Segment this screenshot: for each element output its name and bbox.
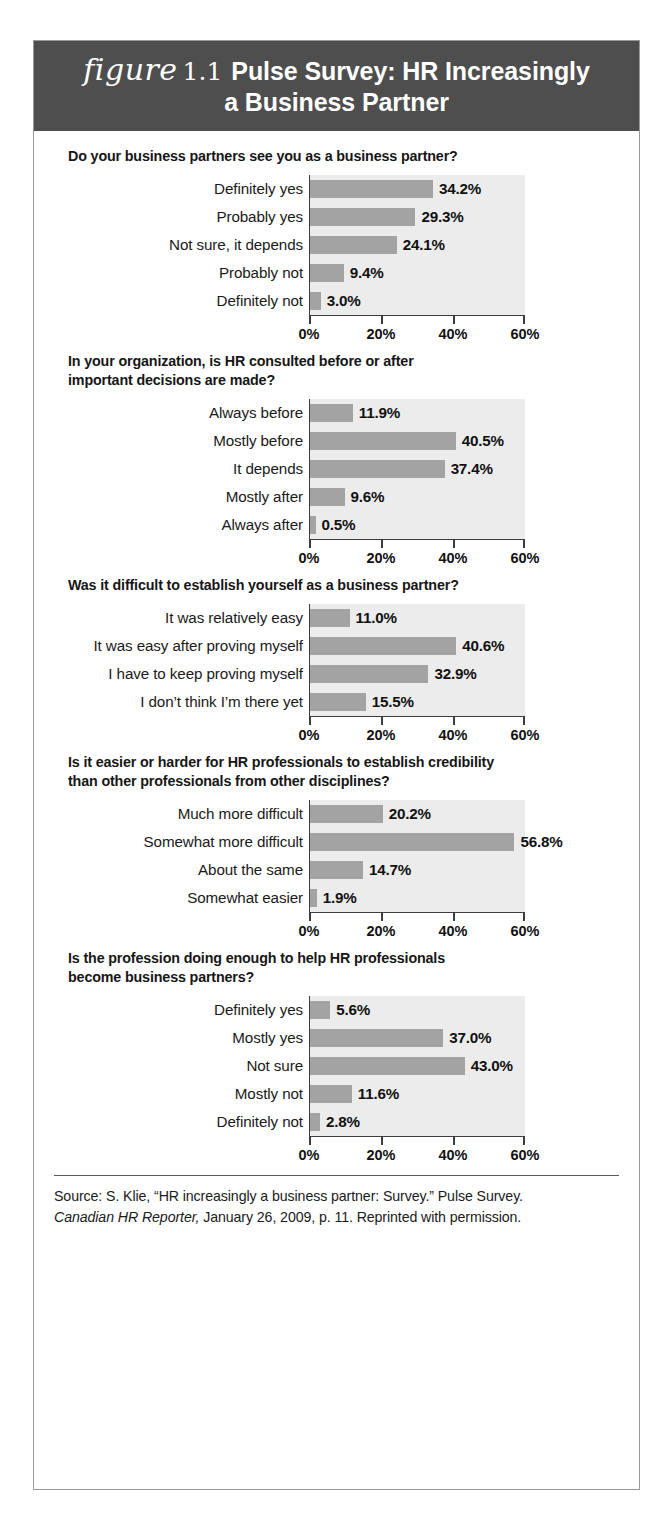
category-label: Probably not	[52, 259, 303, 287]
figure-title-line-2: a Business Partner	[224, 88, 449, 116]
x-axis-tick-label: 40%	[438, 923, 467, 939]
bar-value-label: 0.5%	[316, 511, 356, 539]
x-axis-tick-label: 0%	[299, 727, 320, 743]
source-line-1: Source: S. Klie, “HR increasingly a busi…	[54, 1186, 619, 1207]
bar-row: 56.8%	[310, 828, 525, 856]
x-axis-tick-label: 40%	[438, 326, 467, 342]
x-axis-tick-label: 40%	[438, 727, 467, 743]
bar-row: 37.0%	[310, 1024, 525, 1052]
category-label: It was easy after proving myself	[52, 632, 303, 660]
bar-row: 14.7%	[310, 856, 525, 884]
figure-header-line-1: figure1.1Pulse Survey: HR Increasingly	[64, 53, 609, 88]
bar	[310, 180, 433, 198]
x-axis-tick	[453, 540, 455, 548]
category-label: Somewhat more difficult	[52, 828, 303, 856]
x-axis-tick	[309, 316, 311, 324]
x-axis-tick-label: 40%	[438, 550, 467, 566]
x-axis-tick-label: 20%	[366, 550, 395, 566]
bar-row: 32.9%	[310, 660, 525, 688]
bar	[310, 637, 456, 655]
x-axis-tick-label: 60%	[510, 923, 539, 939]
source-note: Source: S. Klie, “HR increasingly a busi…	[54, 1175, 619, 1229]
chart-question-heading: Do your business partners see you as a b…	[68, 147, 621, 166]
chart-question-heading: Is it easier or harder for HR profession…	[68, 753, 621, 791]
bar-value-label: 40.6%	[456, 632, 504, 660]
category-label: Mostly after	[52, 483, 303, 511]
bar-row: 37.4%	[310, 455, 525, 483]
category-label: Mostly yes	[52, 1024, 303, 1052]
bar	[310, 488, 345, 506]
bar-value-label: 11.6%	[352, 1080, 399, 1108]
x-axis-labels: 0%20%40%60%	[309, 922, 525, 943]
x-axis-tick-label: 0%	[299, 550, 320, 566]
x-axis-tick	[523, 540, 525, 548]
category-label: Not sure	[52, 1052, 303, 1080]
x-axis-tick	[523, 913, 525, 921]
category-label: Somewhat easier	[52, 884, 303, 912]
bar-value-label: 11.9%	[353, 399, 400, 427]
bar-row: 11.9%	[310, 399, 525, 427]
plot-column: 5.6%37.0%43.0%11.6%2.8%0%20%40%60%	[309, 996, 621, 1167]
category-label: Mostly before	[52, 427, 303, 455]
x-axis-labels: 0%20%40%60%	[309, 1146, 525, 1167]
x-axis-tick-label: 60%	[510, 727, 539, 743]
plot-area: 11.0%40.6%32.9%15.5%	[309, 604, 525, 716]
bar	[310, 609, 350, 627]
bar-row: 2.8%	[310, 1108, 525, 1136]
x-axis-tick	[381, 540, 383, 548]
x-axis-tick	[309, 913, 311, 921]
bar-value-label: 3.0%	[321, 287, 361, 315]
bar-value-label: 11.0%	[350, 604, 397, 632]
bar-row: 9.4%	[310, 259, 525, 287]
x-axis-tick	[309, 717, 311, 725]
bar	[310, 805, 383, 823]
bar-row: 29.3%	[310, 203, 525, 231]
chart-block-4: Is it easier or harder for HR profession…	[52, 753, 621, 943]
bar	[310, 404, 353, 422]
x-axis-tick	[523, 717, 525, 725]
bar	[310, 889, 317, 907]
x-axis-tick-label: 0%	[299, 923, 320, 939]
x-axis-tick-label: 20%	[366, 326, 395, 342]
bar-row: 20.2%	[310, 800, 525, 828]
bar-row: 24.1%	[310, 231, 525, 259]
bar-value-label: 34.2%	[433, 175, 481, 203]
bar-row: 34.2%	[310, 175, 525, 203]
bar-value-label: 29.3%	[415, 203, 463, 231]
chart-question-line-1: Is the profession doing enough to help H…	[68, 949, 621, 968]
x-axis-line	[309, 539, 525, 549]
bar	[310, 432, 456, 450]
bar-value-label: 56.8%	[514, 828, 562, 856]
category-label: Not sure, it depends	[52, 231, 303, 259]
category-label: About the same	[52, 856, 303, 884]
plot-area: 20.2%56.8%14.7%1.9%	[309, 800, 525, 912]
bar-row: 40.5%	[310, 427, 525, 455]
bar-value-label: 1.9%	[317, 884, 357, 912]
chart-plot-row: Always beforeMostly beforeIt dependsMost…	[52, 399, 621, 570]
category-label-column: Much more difficultSomewhat more difficu…	[52, 800, 309, 943]
bar	[310, 665, 428, 683]
x-axis-tick	[523, 1137, 525, 1145]
x-axis-tick-label: 0%	[299, 1147, 320, 1163]
figure-title-line-1: Pulse Survey: HR Increasingly	[231, 57, 589, 85]
figure-frame: figure1.1Pulse Survey: HR Increasingly a…	[33, 40, 640, 1490]
figure-number: 1.1	[178, 57, 232, 86]
bar-value-label: 5.6%	[330, 996, 370, 1024]
source-citation-rest: January 26, 2009, p. 11. Reprinted with …	[199, 1209, 521, 1225]
chart-block-1: Do your business partners see you as a b…	[52, 147, 621, 346]
bar-value-label: 37.4%	[445, 455, 493, 483]
chart-question-line-1: Is it easier or harder for HR profession…	[68, 753, 621, 772]
chart-plot-row: It was relatively easyIt was easy after …	[52, 604, 621, 747]
bar-row: 15.5%	[310, 688, 525, 716]
x-axis-tick-label: 60%	[510, 1147, 539, 1163]
bar-row: 3.0%	[310, 287, 525, 315]
category-label: Mostly not	[52, 1080, 303, 1108]
x-axis-tick	[453, 913, 455, 921]
plot-area: 11.9%40.5%37.4%9.6%0.5%	[309, 399, 525, 539]
bar-row: 1.9%	[310, 884, 525, 912]
x-axis-tick	[381, 316, 383, 324]
plot-column: 11.9%40.5%37.4%9.6%0.5%0%20%40%60%	[309, 399, 621, 570]
plot-column: 34.2%29.3%24.1%9.4%3.0%0%20%40%60%	[309, 175, 621, 346]
bar	[310, 833, 514, 851]
chart-question-line-1: In your organization, is HR consulted be…	[68, 352, 621, 371]
